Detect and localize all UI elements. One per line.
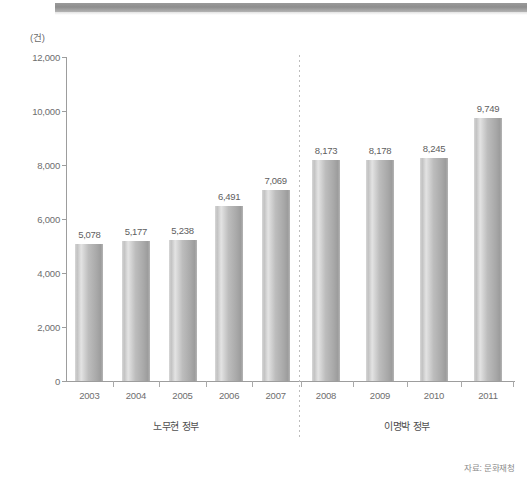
chart-page: (건) 02,0004,0006,0008,00010,00012,000 5,… (0, 0, 527, 497)
bar-value-label: 6,491 (218, 191, 240, 202)
bar-value-label: 5,078 (78, 229, 100, 240)
x-axis-label-2007: 2007 (266, 390, 286, 401)
bar-2011[interactable]: 9,749 (474, 118, 502, 381)
x-axis-tick (407, 381, 408, 387)
y-axis-tick-label: 12,000 (32, 52, 60, 63)
x-axis-tick (159, 381, 160, 387)
x-axis-tick (461, 381, 462, 387)
bar-value-label: 5,177 (125, 226, 147, 237)
y-axis-tick (62, 273, 66, 274)
bar-2003[interactable]: 5,078 (75, 244, 103, 381)
x-axis-line (66, 381, 515, 382)
bar-2005[interactable]: 5,238 (169, 240, 197, 381)
bar-slot: 8,2452010 (420, 57, 448, 381)
x-axis-tick (206, 381, 207, 387)
bar-2009[interactable]: 8,178 (366, 160, 394, 381)
bar-value-label: 7,069 (265, 175, 287, 186)
x-axis-label-2005: 2005 (172, 390, 192, 401)
x-axis-label-2008: 2008 (316, 390, 336, 401)
bar-slot: 5,1772004 (122, 57, 150, 381)
y-axis-tick (62, 111, 66, 112)
header-band-shadow (55, 12, 527, 15)
source-note: 자료: 문화재청 (464, 461, 515, 473)
x-axis-tick (513, 381, 514, 387)
y-axis-tick (62, 327, 66, 328)
x-axis-tick (113, 381, 114, 387)
y-axis-tick-label: 0 (55, 376, 60, 387)
bar-2008[interactable]: 8,173 (312, 160, 340, 381)
x-axis-tick (301, 381, 302, 387)
y-axis-line (66, 57, 67, 381)
x-axis-label-2004: 2004 (126, 390, 146, 401)
bar-2007[interactable]: 7,069 (262, 190, 290, 381)
x-axis-label-2010: 2010 (424, 390, 444, 401)
x-axis-label-2003: 2003 (79, 390, 99, 401)
x-axis-label-2009: 2009 (370, 390, 390, 401)
group-caption-roh: 노무현 정부 (66, 418, 286, 433)
bar-value-label: 8,173 (315, 145, 337, 156)
bar-2004[interactable]: 5,177 (122, 241, 150, 381)
bar-2006[interactable]: 6,491 (215, 206, 243, 381)
bar-value-label: 5,238 (171, 225, 193, 236)
x-axis-tick (353, 381, 354, 387)
bar-slot: 6,4912006 (215, 57, 243, 381)
bar-slot: 8,1782009 (366, 57, 394, 381)
y-axis-tick (62, 219, 66, 220)
x-axis-label-2011: 2011 (478, 390, 498, 401)
bar-value-label: 8,245 (423, 143, 445, 154)
bar-value-label: 9,749 (477, 103, 499, 114)
y-axis-tick-label: 2,000 (37, 322, 60, 333)
bar-slot: 5,2382005 (169, 57, 197, 381)
x-axis-label-2006: 2006 (219, 390, 239, 401)
y-axis-tick (62, 381, 66, 382)
plot-area: 02,0004,0006,0008,00010,00012,000 5,0782… (66, 57, 515, 381)
y-axis-tick-label: 10,000 (32, 106, 60, 117)
y-axis-tick (62, 57, 66, 58)
group-caption-lee: 이명박 정부 (299, 418, 515, 433)
bar-slot: 7,0692007 (262, 57, 290, 381)
bar-slot: 5,0782003 (75, 57, 103, 381)
bar-slot: 9,7492011 (474, 57, 502, 381)
bar-2010[interactable]: 8,245 (420, 158, 448, 381)
bar-value-label: 8,178 (369, 145, 391, 156)
x-axis-tick (252, 381, 253, 387)
bar-slot: 8,1732008 (312, 57, 340, 381)
header-band (55, 3, 527, 12)
y-axis-tick-label: 6,000 (37, 214, 60, 225)
y-axis-tick (62, 165, 66, 166)
y-axis-unit-label: (건) (30, 30, 45, 44)
y-axis-tick-label: 4,000 (37, 268, 60, 279)
group-divider-line (299, 55, 300, 440)
y-axis-tick-label: 8,000 (37, 160, 60, 171)
